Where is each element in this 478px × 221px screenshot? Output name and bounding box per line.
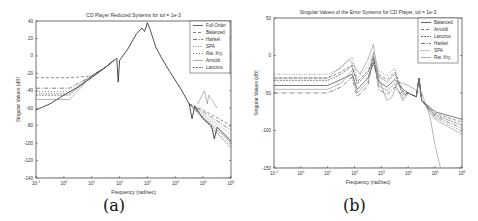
legend-entry: Lanczos (206, 65, 224, 70)
y-tick-label: -50 (264, 91, 271, 96)
chart-b-plot: Singular Values of the Error Systems for… (240, 0, 478, 195)
chart-a: CD Player Reduced Systems for tol = 1e-3… (0, 0, 240, 195)
y-axis-label: Singular Values (dB) (253, 70, 259, 116)
x-tick-label: 10-1 (32, 180, 40, 186)
y-tick-label: -60 (26, 106, 33, 111)
caption-b: (b) (343, 196, 366, 215)
x-axis-label: Frequency (rad/sec) (346, 179, 391, 185)
legend-entry: Hankel (434, 41, 448, 46)
legend-entry: Lanczos (434, 34, 452, 39)
y-axis-label: Singular Values (dB) (15, 76, 21, 122)
legend-entry: Rat. Kry. (206, 51, 223, 56)
y-tick-label: 20 (28, 36, 34, 41)
x-tick-label: 100 (297, 170, 304, 176)
legend-entry: SPA (434, 48, 443, 53)
chart-b: Singular Values of the Error Systems for… (240, 0, 478, 195)
x-tick-label: 102 (116, 180, 123, 186)
x-tick-label: 104 (405, 170, 412, 176)
x-tick-label: 10-1 (270, 170, 278, 176)
x-axis-label: Frequency (rad/sec) (111, 189, 156, 195)
x-tick-label: 102 (351, 170, 358, 176)
legend-entry: Arnoldi (434, 27, 448, 32)
caption-a: (a) (103, 196, 125, 215)
y-tick-label: -20 (26, 71, 33, 76)
chart-a-plot: CD Player Reduced Systems for tol = 1e-3… (0, 0, 240, 195)
x-tick-label: 101 (88, 180, 95, 186)
y-tick-label: -100 (262, 128, 272, 133)
y-tick-label: 50 (266, 16, 272, 21)
legend-entry: Balanced (206, 30, 225, 35)
y-tick-label: -40 (26, 88, 33, 93)
y-tick-label: 0 (30, 53, 33, 58)
legend-entry: Balanced (434, 20, 453, 25)
x-tick-label: 106 (228, 180, 235, 186)
x-tick-label: 100 (60, 180, 67, 186)
x-tick-label: 103 (378, 170, 385, 176)
legend-entry: Rat. Kry. (434, 55, 451, 60)
y-tick-label: -150 (262, 166, 272, 171)
y-tick-label: -120 (24, 158, 34, 163)
legend-entry: Arnoldi (206, 58, 220, 63)
y-tick-label: -140 (24, 176, 34, 181)
x-tick-label: 105 (432, 170, 439, 176)
y-tick-label: -80 (26, 123, 33, 128)
y-tick-label: 0 (268, 53, 271, 58)
legend-entry: Hankel (206, 37, 220, 42)
x-tick-label: 103 (144, 180, 151, 186)
x-tick-label: 105 (200, 180, 207, 186)
x-tick-label: 106 (459, 170, 466, 176)
x-tick-label: 104 (172, 180, 179, 186)
y-tick-label: -100 (24, 141, 34, 146)
legend-entry: SPA (206, 44, 215, 49)
chart-title: CD Player Reduced Systems for tol = 1e-3 (86, 12, 181, 18)
x-tick-label: 101 (324, 170, 331, 176)
chart-title: Singular Values of the Error Systems for… (300, 9, 437, 15)
y-tick-label: 40 (28, 19, 34, 24)
legend-entry: Full Order (206, 23, 227, 28)
